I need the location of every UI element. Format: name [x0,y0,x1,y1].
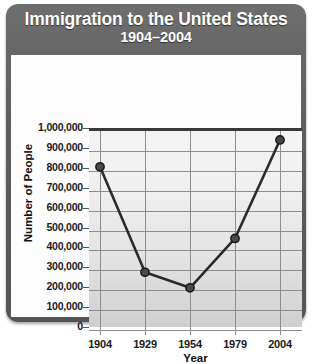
data-point-marker [276,136,284,144]
x-axis-tick-label: 1904 [77,338,123,350]
x-axis-tick [280,327,281,335]
x-axis-tick [145,327,146,335]
chart-title-block: Immigration to the United States 1904–20… [6,4,306,55]
y-axis-tick-label: 1,000,000 [13,122,83,133]
y-axis-tick-label: 600,000 [13,202,83,213]
y-axis-tick-label: 500,000 [13,222,83,233]
data-point-marker [231,234,239,242]
x-axis-tick-label: 1954 [167,338,213,350]
x-axis-tick-label: 1929 [122,338,168,350]
data-point-marker [186,284,194,292]
y-axis-tick-label: 200,000 [13,281,83,292]
x-axis-tick [100,327,101,335]
x-axis-title: Year [89,352,302,364]
y-axis-tick-label: 100,000 [13,301,83,312]
plot-area [89,128,302,327]
data-point-marker [141,268,149,276]
x-axis-tick-label: 1979 [212,338,258,350]
y-axis-tick-label: 700,000 [13,182,83,193]
data-series-line [89,131,302,330]
data-point-marker [96,163,104,171]
y-axis-tick-label: 900,000 [13,142,83,153]
y-axis-tick-label: 400,000 [13,241,83,252]
chart-plot-card: Number of People 1,000,000900,000800,000… [11,55,301,317]
chart-subtitle: 1904–2004 [6,29,306,46]
y-axis-tick-label: 0 [13,321,83,332]
x-axis-tick [235,327,236,335]
x-axis-tick [190,327,191,335]
gridline-horizontal [89,330,302,331]
x-axis-tick-label: 2004 [257,338,303,350]
y-axis-tick-label: 800,000 [13,162,83,173]
chart-title: Immigration to the United States [6,9,306,29]
y-axis-tick-label: 300,000 [13,261,83,272]
